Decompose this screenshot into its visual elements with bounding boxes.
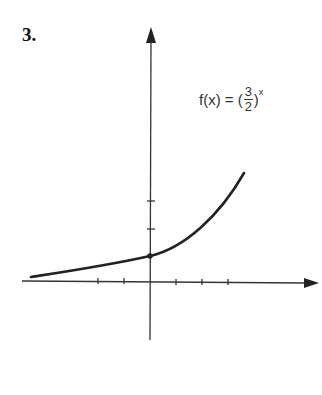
y-intercept-point	[147, 253, 153, 259]
y-axis-arrow-icon	[146, 27, 156, 43]
x-axis	[22, 278, 319, 288]
denominator: 2	[245, 101, 252, 113]
label-prefix: f(x) = (	[199, 91, 243, 108]
numerator: 3	[245, 86, 252, 98]
fraction: 3 2	[244, 86, 253, 113]
x-axis-arrow-icon	[304, 278, 319, 288]
exponential-graph	[0, 0, 322, 395]
y-axis	[146, 27, 156, 340]
function-label: f(x) = ( 3 2 ) x	[199, 86, 263, 113]
function-curve	[31, 173, 244, 277]
exponent: x	[259, 87, 264, 97]
